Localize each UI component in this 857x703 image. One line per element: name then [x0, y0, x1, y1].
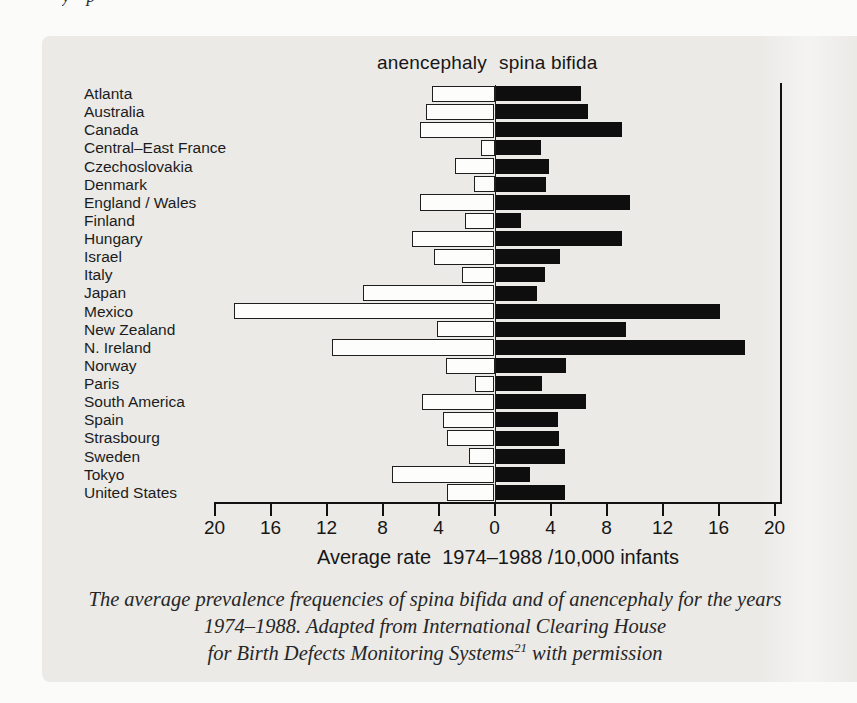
anencephaly-bar — [465, 213, 494, 229]
category-label: Italy — [84, 266, 112, 284]
category-label: Australia — [84, 103, 144, 121]
anencephaly-bar — [234, 303, 494, 319]
spina-bifida-bar — [496, 177, 546, 192]
anencephaly-bar — [434, 249, 494, 265]
category-label: Mexico — [84, 303, 133, 321]
spina-bifida-bar — [496, 195, 630, 210]
anencephaly-bar — [392, 466, 494, 482]
anencephaly-bar — [332, 339, 494, 355]
anencephaly-bar — [432, 86, 495, 102]
caption-line-3: for Birth Defects Monitoring Systems21 w… — [40, 640, 830, 667]
anencephaly-bar — [420, 194, 494, 210]
right-frame-line — [780, 83, 782, 504]
tick-mark — [270, 504, 272, 516]
spina-bifida-bar — [496, 159, 549, 174]
spina-bifida-bar — [496, 140, 541, 155]
anencephaly-bar — [447, 430, 495, 446]
zero-baseline — [495, 85, 497, 502]
tick-mark — [774, 504, 776, 516]
anencephaly-bar — [447, 484, 495, 500]
anencephaly-bar — [412, 231, 495, 247]
spina-bifida-bar — [496, 340, 745, 355]
tick-label: 12 — [641, 517, 685, 539]
tick-label: 4 — [529, 517, 573, 539]
category-label: New Zealand — [84, 321, 175, 339]
category-label: Canada — [84, 121, 138, 139]
spina-bifida-bar — [496, 104, 588, 119]
category-label: United States — [84, 484, 177, 502]
anencephaly-bar — [474, 176, 495, 192]
legend-anencephaly-label: anencephaly — [0, 52, 487, 74]
cropped-text-artifact: y p — [62, 0, 122, 6]
tick-label: 16 — [249, 517, 293, 539]
spina-bifida-bar — [496, 86, 581, 101]
category-label: England / Wales — [84, 194, 196, 212]
category-label: Finland — [84, 212, 135, 230]
x-axis-title: Average rate 1974–1988 /10,000 infants — [215, 546, 781, 569]
spina-bifida-bar — [496, 467, 530, 482]
spina-bifida-bar — [496, 322, 626, 337]
anencephaly-bar — [363, 285, 495, 301]
anencephaly-bar — [443, 412, 495, 428]
anencephaly-bar — [446, 358, 495, 374]
tick-mark — [550, 504, 552, 516]
tick-label: 8 — [585, 517, 629, 539]
figure-caption: The average prevalence frequencies of sp… — [40, 586, 830, 667]
category-label: Central–East France — [84, 139, 226, 157]
tick-mark — [438, 504, 440, 516]
tick-mark — [662, 504, 664, 516]
spina-bifida-bar — [496, 304, 720, 319]
spina-bifida-bar — [496, 376, 542, 391]
spina-bifida-bar — [496, 431, 559, 446]
tick-mark — [214, 504, 216, 516]
spina-bifida-bar — [496, 412, 558, 427]
spina-bifida-bar — [496, 249, 560, 264]
category-label: Japan — [84, 284, 126, 302]
anencephaly-bar — [426, 104, 495, 120]
tick-label: 4 — [417, 517, 461, 539]
anencephaly-bar — [420, 122, 494, 138]
anencephaly-bar — [455, 158, 494, 174]
tick-label: 8 — [361, 517, 405, 539]
tick-label: 12 — [305, 517, 349, 539]
category-label: Denmark — [84, 176, 147, 194]
category-label: N. Ireland — [84, 339, 151, 357]
anencephaly-bar — [422, 394, 495, 410]
tick-mark — [718, 504, 720, 516]
reference-superscript: 21 — [514, 640, 527, 655]
category-label: Israel — [84, 248, 122, 266]
spina-bifida-bar — [496, 394, 586, 409]
category-label: Spain — [84, 411, 124, 429]
spina-bifida-bar — [496, 485, 565, 500]
anencephaly-bar — [481, 140, 495, 156]
spina-bifida-bar — [496, 267, 545, 282]
category-label: Norway — [84, 357, 137, 375]
tick-mark — [494, 504, 496, 516]
anencephaly-bar — [469, 448, 494, 464]
caption-line-2: 1974–1988. Adapted from International Cl… — [40, 613, 830, 640]
anencephaly-bar — [462, 267, 494, 283]
anencephaly-bar — [437, 321, 494, 337]
spina-bifida-bar — [496, 122, 622, 137]
category-label: Atlanta — [84, 85, 132, 103]
category-label: Tokyo — [84, 466, 125, 484]
x-axis-line — [214, 502, 782, 504]
category-label: Sweden — [84, 448, 140, 466]
legend-spina-bifida-label: spina bifida — [499, 52, 598, 74]
category-label: Hungary — [84, 230, 143, 248]
tick-label: 20 — [193, 517, 237, 539]
spina-bifida-bar — [496, 358, 566, 373]
category-label: South America — [84, 393, 185, 411]
category-label: Strasbourg — [84, 429, 160, 447]
spina-bifida-bar — [496, 231, 622, 246]
tick-label: 16 — [697, 517, 741, 539]
tick-mark — [382, 504, 384, 516]
tick-label: 20 — [753, 517, 797, 539]
tick-mark — [326, 504, 328, 516]
tick-mark — [606, 504, 608, 516]
category-label: Czechoslovakia — [84, 158, 193, 176]
category-label: Paris — [84, 375, 119, 393]
caption-line-1: The average prevalence frequencies of sp… — [40, 586, 830, 613]
tick-label: 0 — [473, 517, 517, 539]
spina-bifida-bar — [496, 286, 537, 301]
